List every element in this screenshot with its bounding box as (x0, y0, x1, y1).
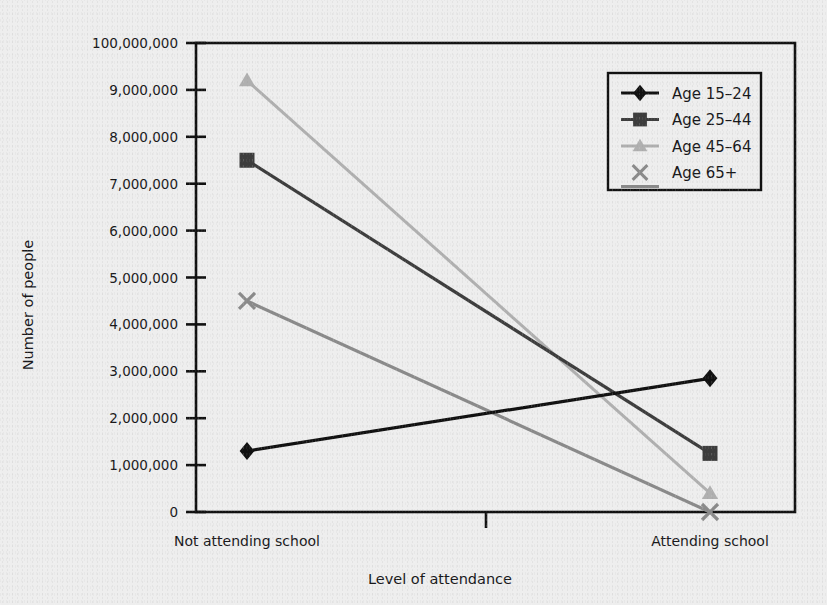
legend-item-label: Age 15–24 (672, 85, 751, 103)
y-axis-tick-label: 1,000,000 (109, 457, 178, 473)
series-line (247, 160, 710, 453)
y-axis-tick-label: 8,000,000 (109, 129, 178, 145)
legend-item-2[interactable]: Age 25–44 (621, 111, 751, 129)
legend-item-3[interactable]: Age 45–64 (621, 138, 751, 156)
y-axis-tick-label: 7,000,000 (109, 176, 178, 192)
legend-item-label: Age 45–64 (672, 138, 751, 156)
legend-item-label: Age 25–44 (672, 111, 751, 129)
x-category-label-attending: Attending school (651, 533, 769, 549)
series-triangle (239, 73, 718, 499)
series-line (247, 378, 710, 451)
data-point-triangle-marker (239, 73, 255, 87)
y-axis-tick-label: 9,000,000 (109, 82, 178, 98)
data-point-square-marker (633, 113, 647, 127)
x-category-label-not-attending: Not attending school (174, 533, 320, 549)
data-point-diamond-marker (633, 85, 647, 102)
data-point-cross-marker (633, 165, 648, 180)
y-axis-tick-label: 0 (169, 504, 178, 520)
series-cross (239, 293, 718, 520)
x-axis-title: Level of attendance (368, 571, 512, 587)
y-axis-tick-label: 4,000,000 (109, 316, 178, 332)
y-axis-tick-label: 5,000,000 (109, 270, 178, 286)
data-point-diamond-marker (240, 442, 255, 460)
series-group (239, 73, 718, 520)
data-point-cross-marker (239, 293, 255, 309)
y-axis-tick-labels: 01,000,0002,000,0003,000,0004,000,0005,0… (92, 35, 178, 520)
y-axis-tick-label: 2,000,000 (109, 410, 178, 426)
y-axis-title: Number of people (20, 240, 36, 371)
legend-item-label: Age 65+ (672, 164, 737, 182)
y-axis-tick-label: 100,000,000 (92, 35, 178, 51)
data-point-diamond-marker (703, 369, 718, 387)
legend: Age 15–24Age 25–44Age 45–64Age 65+ (608, 73, 761, 190)
y-axis-tick-label: 3,000,000 (109, 363, 178, 379)
series-line (247, 301, 710, 512)
data-point-square-marker (240, 153, 255, 168)
chart-canvas: 01,000,0002,000,0003,000,0004,000,0005,0… (0, 0, 827, 605)
legend-item-4[interactable]: Age 65+ (621, 164, 737, 187)
data-point-square-marker (703, 446, 718, 461)
line-chart: 01,000,0002,000,0003,000,0004,000,0005,0… (0, 0, 827, 605)
legend-item-1[interactable]: Age 15–24 (621, 85, 751, 103)
y-axis-tick-label: 6,000,000 (109, 223, 178, 239)
series-diamond (240, 369, 718, 460)
